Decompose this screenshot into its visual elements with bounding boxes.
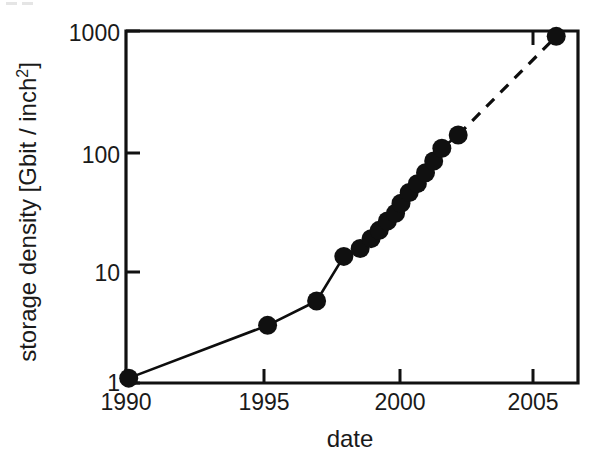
svg-text:storage density [Gbit / inch2: storage density [Gbit / inch2] [14,62,41,362]
plot-frame [126,31,578,383]
y-tick-label-100: 100 [82,142,120,168]
x-tick-label-1990: 1990 [100,389,151,415]
data-point-extrapolated [547,27,566,46]
y-axis-title-suffix: ] [14,62,41,69]
data-point [334,247,353,266]
x-axis-title: date [327,425,374,452]
y-tick-label-1000: 1000 [69,20,120,46]
data-point [258,316,277,335]
data-point [432,139,451,158]
x-axis-tick-labels: 1990 1995 2000 2005 [100,389,558,415]
series-markers [119,27,565,388]
x-tick-label-2000: 2000 [374,389,425,415]
data-point [449,125,468,144]
y-axis-tick-labels: 1000 100 10 1 [69,20,120,396]
storage-density-chart: 1000 100 10 1 1990 1995 2000 2005 date s… [0,0,602,458]
y-axis-title: storage density [Gbit / inch2] [14,62,41,362]
y-tick-label-10: 10 [94,260,120,286]
data-point [119,369,138,388]
axis-box [126,31,578,383]
series-line-extrapolation [458,36,556,135]
x-tick-label-1995: 1995 [238,389,289,415]
y-axis-title-prefix: storage density [Gbit / inch [14,78,41,362]
y-axis-ticks [126,31,140,383]
data-point [307,291,326,310]
figure-container: 1000 100 10 1 1990 1995 2000 2005 date s… [0,0,602,458]
series-group [119,27,565,388]
x-axis-ticks [126,31,533,383]
x-tick-label-2005: 2005 [507,389,558,415]
y-axis-title-superscript: 2 [14,69,31,78]
series-line-measured [129,135,458,378]
